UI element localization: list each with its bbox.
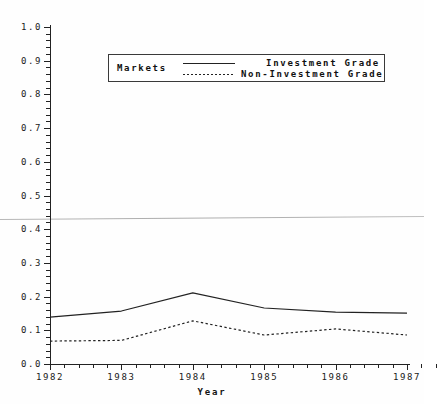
x-tick-minor [307,364,308,368]
y-tick-minor [46,148,50,149]
legend-label-investment-grade: Investment Grade [241,58,380,68]
y-tick-label-text: 0.8 [0,90,42,99]
y-tick-major [44,229,50,230]
x-tick-minor [350,364,351,368]
x-tick-label: 1987 [393,372,421,382]
y-tick-label-text: 0.9 [0,57,42,66]
y-tick-minor [46,222,50,223]
x-tick-minor [221,364,222,368]
y-tick-label-text: 0.5 [0,192,42,201]
x-tick-major [336,364,337,370]
x-tick-label: 1982 [36,372,64,382]
x-tick-minor [164,364,165,368]
y-tick-label-text: 1.0 [0,23,42,32]
y-tick-minor [46,40,50,41]
y-tick-minor [46,357,50,358]
y-tick-minor [46,189,50,190]
x-tick-minor [179,364,180,368]
x-tick-major [193,364,194,370]
x-tick-minor [421,364,422,368]
y-tick-minor [46,270,50,271]
y-tick-label-text: 0.3 [0,259,42,268]
y-tick-minor [46,243,50,244]
x-tick-minor [393,364,394,368]
x-tick-minor [250,364,251,368]
x-tick-minor [64,364,65,368]
series-line-investment-grade [50,293,407,317]
x-axis-line [50,364,410,365]
legend-label-non-investment-grade: Non-Investment Grade [241,69,383,79]
y-tick-major [44,61,50,62]
y-tick-minor [46,34,50,35]
y-tick-label-text: 0.6 [0,158,42,167]
y-tick-minor [46,175,50,176]
legend-swatch-dotted-line-icon [183,71,235,78]
y-tick-label-text: 0.0 [0,360,42,369]
y-tick-major [44,128,50,129]
x-tick-minor [378,364,379,368]
y-tick-minor [46,88,50,89]
x-tick-minor [207,364,208,368]
x-tick-minor [436,364,437,368]
y-tick-major [44,196,50,197]
y-tick-minor [46,337,50,338]
y-tick-minor [46,135,50,136]
y-axis-line [50,25,51,365]
y-tick-minor [46,344,50,345]
x-tick-major [50,364,51,370]
legend-title: Markets [117,63,167,73]
x-tick-major [121,364,122,370]
y-tick-minor [46,121,50,122]
y-tick-minor [46,290,50,291]
x-tick-minor [321,364,322,368]
x-tick-label: 1985 [250,372,278,382]
y-tick-minor [46,155,50,156]
y-tick-label-text: 0.4 [0,225,42,234]
y-tick-minor [46,209,50,210]
y-tick-minor [46,182,50,183]
y-tick-major [44,330,50,331]
y-tick-minor [46,283,50,284]
x-tick-label: 1984 [179,372,207,382]
y-tick-minor [46,324,50,325]
x-tick-minor [107,364,108,368]
y-tick-minor [46,351,50,352]
y-tick-minor [46,142,50,143]
y-tick-minor [46,67,50,68]
y-tick-minor [46,276,50,277]
y-tick-minor [46,303,50,304]
y-tick-label-text: 0.7 [0,124,42,133]
x-tick-major [264,364,265,370]
y-tick-minor [46,202,50,203]
x-tick-minor [364,364,365,368]
y-tick-label-text: 0.2 [0,293,42,302]
x-tick-minor [236,364,237,368]
x-tick-minor [278,364,279,368]
x-tick-minor [293,364,294,368]
y-tick-minor [46,108,50,109]
legend-swatch-solid-line-icon [183,60,235,67]
x-tick-minor [150,364,151,368]
y-tick-minor [46,236,50,237]
y-tick-minor [46,310,50,311]
y-tick-major [44,162,50,163]
x-tick-major [407,364,408,370]
y-tick-major [44,94,50,95]
chart-legend: Markets Investment Grade Non-Investment … [108,54,385,82]
x-tick-minor [93,364,94,368]
scan-crease-artifact [0,216,424,220]
legend-entry-non-investment-grade: Non-Investment Grade [183,68,380,80]
y-tick-major [44,27,50,28]
y-tick-minor [46,115,50,116]
series-line-non-investment-grade [50,321,407,341]
y-tick-minor [46,81,50,82]
y-tick-label-text: 0.1 [0,326,42,335]
y-tick-minor [46,101,50,102]
y-tick-minor [46,47,50,48]
y-tick-minor [46,317,50,318]
y-tick-minor [46,249,50,250]
y-tick-minor [46,54,50,55]
y-tick-minor [46,256,50,257]
y-tick-minor [46,216,50,217]
